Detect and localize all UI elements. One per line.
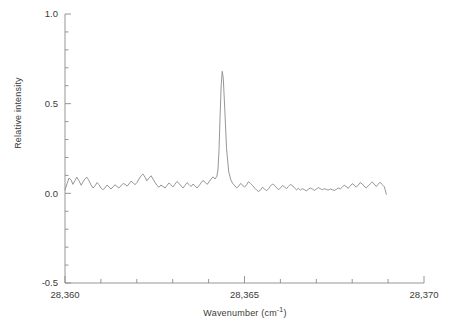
axes-group (65, 14, 424, 283)
tick-labels-group: -0.50.00.51.028,36028,36528,370 (42, 8, 439, 300)
y-tick-label: -0.5 (42, 277, 58, 288)
y-tick-label: 1.0 (45, 8, 58, 19)
y-tick-label: 0.5 (45, 98, 58, 109)
x-axis-label: Wavenumber (cm-1) (65, 308, 425, 318)
spectrum-figure: Relative intensity Wavenumber (cm-1) -0.… (0, 0, 449, 333)
x-tick-label: 28,360 (50, 289, 79, 300)
y-axis-label: Relative intensity (13, 43, 23, 183)
plot-canvas: -0.50.00.51.028,36028,36528,370 (0, 0, 449, 333)
y-tick-label: 0.0 (45, 188, 58, 199)
x-axis-label-tail: ) (283, 308, 286, 318)
x-axis-label-main: Wavenumber (cm (203, 308, 276, 318)
x-tick-label: 28,370 (409, 289, 438, 300)
spectrum-trace (65, 71, 386, 194)
x-tick-label: 28,365 (230, 289, 259, 300)
